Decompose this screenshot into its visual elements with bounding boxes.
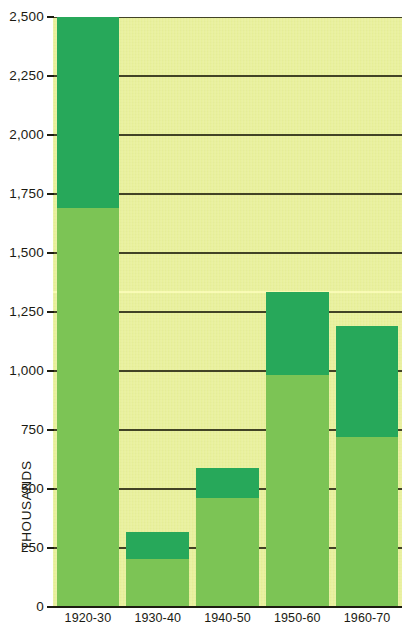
y-tick-label: 1,750 bbox=[9, 187, 44, 201]
x-tick-label-1940-50: 1940-50 bbox=[193, 612, 263, 625]
y-tick-mark bbox=[47, 311, 54, 313]
bar-1930-40[interactable] bbox=[126, 531, 189, 607]
x-axis-line bbox=[53, 606, 402, 608]
y-tick-mark bbox=[47, 16, 54, 18]
y-tick-label: 1,250 bbox=[9, 305, 44, 319]
y-tick-mark bbox=[47, 370, 54, 372]
plot-area bbox=[53, 17, 402, 607]
y-tick-mark bbox=[47, 134, 54, 136]
y-tick-mark bbox=[47, 193, 54, 195]
bar-segment-lower bbox=[266, 375, 329, 607]
x-tick-label-1930-40: 1930-40 bbox=[123, 612, 193, 625]
y-tick-label: 2,500 bbox=[9, 10, 44, 24]
y-tick-label: 750 bbox=[21, 423, 44, 437]
bar-segment-upper bbox=[336, 326, 399, 437]
bar-segment-lower bbox=[57, 208, 120, 607]
y-tick-mark bbox=[47, 429, 54, 431]
x-tick-label-1950-60: 1950-60 bbox=[262, 612, 332, 625]
bar-segment-lower bbox=[126, 559, 189, 607]
bar-segment-upper bbox=[266, 292, 329, 375]
bar-segment-upper bbox=[196, 468, 259, 499]
y-tick-mark bbox=[47, 606, 54, 608]
bar-segment-upper bbox=[126, 532, 189, 559]
y-tick-label: 0 bbox=[36, 600, 44, 614]
bar-1950-60[interactable] bbox=[266, 292, 329, 607]
bar-1920-30[interactable] bbox=[57, 17, 120, 607]
bar-segment-upper bbox=[57, 17, 120, 208]
y-tick-label: 2,000 bbox=[9, 128, 44, 142]
y-tick-label: 1,500 bbox=[9, 246, 44, 260]
y-axis-title: THOUSANDS bbox=[19, 436, 34, 576]
bar-chart: 02505007501,0001,2501,5001,7502,0002,250… bbox=[0, 0, 413, 640]
bar-1940-50[interactable] bbox=[196, 468, 259, 607]
y-tick-label: 1,000 bbox=[9, 364, 44, 378]
y-tick-mark bbox=[47, 488, 54, 490]
x-tick-label-1920-30: 1920-30 bbox=[53, 612, 123, 625]
x-tick-label-1960-70: 1960-70 bbox=[332, 612, 402, 625]
y-tick-mark bbox=[47, 75, 54, 77]
y-tick-label: 2,250 bbox=[9, 69, 44, 83]
y-tick-mark bbox=[47, 547, 54, 549]
bar-segment-lower bbox=[196, 498, 259, 607]
y-tick-mark bbox=[47, 252, 54, 254]
bar-segment-lower bbox=[336, 437, 399, 607]
bar-1960-70[interactable] bbox=[336, 326, 399, 607]
